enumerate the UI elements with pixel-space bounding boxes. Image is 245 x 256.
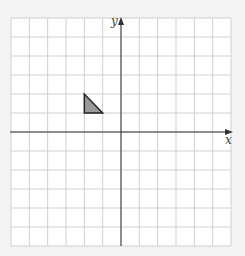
y-axis-label: y	[110, 14, 118, 28]
x-axis-label: x	[225, 133, 232, 147]
coordinate-plane: x y	[0, 0, 245, 256]
